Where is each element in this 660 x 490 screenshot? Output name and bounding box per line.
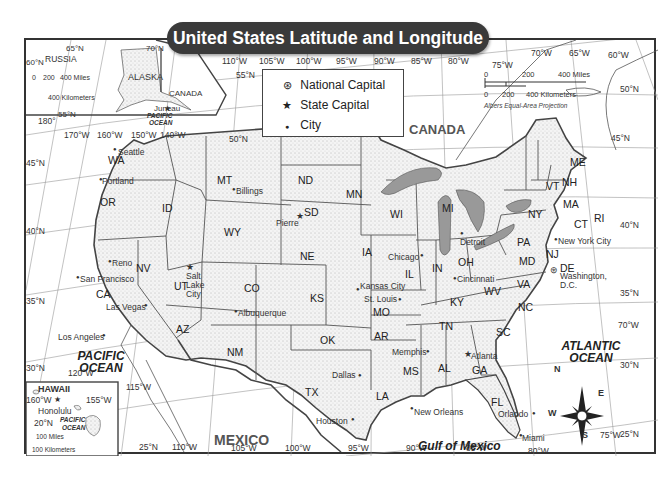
ak-canada: CANADA xyxy=(169,89,202,98)
atlantic-ocean-label: ATLANTIC OCEAN xyxy=(546,340,636,364)
scale-km-0: 0 xyxy=(484,90,488,99)
state-il: IL xyxy=(405,268,414,280)
state-ar: AR xyxy=(374,330,389,342)
city-dot: ● xyxy=(356,286,360,292)
country-mexico: MEXICO xyxy=(214,432,269,448)
pacific-ocean-label: PACIFIC OCEAN xyxy=(66,350,136,374)
scale-miles-200: 200 xyxy=(522,70,535,79)
state-capital-star-icon: ★ xyxy=(54,395,61,404)
lon-115w-bottom: 115°W xyxy=(126,382,151,392)
country-canada: CANADA xyxy=(409,122,465,137)
state-capital-star-icon: ★ xyxy=(164,104,171,113)
state-nh: NH xyxy=(562,176,577,188)
ak-lon-140: 140°W xyxy=(160,130,186,140)
ak-lon-150: 150°W xyxy=(131,130,157,140)
city-billings: Billings xyxy=(236,186,263,196)
state-az: AZ xyxy=(176,323,189,335)
city-cincinnati: Cincinnati xyxy=(457,274,494,284)
city-dot: ● xyxy=(99,176,103,182)
city-chicago: Chicago xyxy=(388,252,419,262)
hi-lon-160: 160°W xyxy=(26,395,52,405)
state-capital-star-icon: ★ xyxy=(464,349,472,359)
lat-55n-left: 55°N xyxy=(236,70,255,80)
city-dot: ● xyxy=(398,296,402,302)
hi-ocean: OCEAN xyxy=(62,424,85,431)
lat-45n-right: 45°N xyxy=(611,133,630,143)
city-salt-lake: Salt Lake City xyxy=(186,272,204,299)
lat-25n-right: 25°N xyxy=(620,429,639,439)
city-dot: ● xyxy=(232,186,236,192)
lat-50n-left: 50°N xyxy=(229,134,248,144)
city-kansas-city: Kansas City xyxy=(360,281,405,291)
ak-lat-55: 55°N xyxy=(58,110,76,119)
city-dot: ● xyxy=(410,405,414,411)
scale-miles-0: 0 xyxy=(484,70,488,79)
ak-ocean: OCEAN xyxy=(149,119,172,126)
city-new-york: New York City xyxy=(558,236,611,246)
lon-70w-top: 70°W xyxy=(531,48,552,58)
state-tx: TX xyxy=(305,386,318,398)
state-nc: NC xyxy=(518,301,533,313)
state-or: OR xyxy=(100,196,116,208)
hi-lat-20: 20°N xyxy=(34,418,53,428)
lon-100w-bottom: 100°W xyxy=(285,443,311,453)
ak-lat-70: 70°N xyxy=(146,44,164,53)
compass-n: N xyxy=(554,364,561,374)
ak-scale-400: 400 Miles xyxy=(60,74,90,81)
lat-30n-left: 30°N xyxy=(26,363,45,373)
state-mt: MT xyxy=(217,174,232,186)
lat-40n-left: 40°N xyxy=(26,226,45,236)
city-dot: ● xyxy=(519,432,523,438)
city-portland: Portland xyxy=(102,176,134,186)
lon-105w-top: 105°W xyxy=(259,56,285,66)
ak-lon-180: 180° xyxy=(38,116,56,126)
state-ri: RI xyxy=(594,212,605,224)
state-capital-star-icon: ★ xyxy=(186,262,194,272)
city-seattle: Seattle xyxy=(118,147,144,157)
city-dot: ● xyxy=(76,274,80,280)
hi-scale-km: 100 Kilometers xyxy=(32,446,75,453)
city-dot: ● xyxy=(108,258,112,264)
hi-lon-155: 155°W xyxy=(86,395,112,405)
state-md: MD xyxy=(519,255,535,267)
lon-95w-bottom: 95°W xyxy=(348,443,369,453)
state-ia: IA xyxy=(362,246,372,258)
lon-110w-bottom: 110°W xyxy=(172,442,197,452)
city-dallas: Dallas xyxy=(332,370,356,380)
lat-45n-left: 45°N xyxy=(26,158,45,168)
city-new-orleans: New Orleans xyxy=(414,407,463,417)
ak-pacific: PACIFIC xyxy=(147,112,173,119)
state-nd: ND xyxy=(298,174,313,186)
ak-lon-160: 160°W xyxy=(97,130,123,140)
city-orlando: Orlando xyxy=(498,409,528,419)
state-ok: OK xyxy=(320,334,335,346)
state-in: IN xyxy=(432,262,443,274)
state-mo: MO xyxy=(373,306,390,318)
city-dot: ● xyxy=(144,302,148,308)
state-la: LA xyxy=(376,390,389,402)
lon-80w-bottom: 80°W xyxy=(528,446,549,456)
ak-lat-60: 60°N xyxy=(26,58,44,67)
map-title: United States Latitude and Longitude xyxy=(167,22,489,54)
state-co: CO xyxy=(244,282,260,294)
city-st-louis: St. Louis xyxy=(364,294,397,304)
state-mn: MN xyxy=(346,188,362,200)
state-ne: NE xyxy=(300,250,315,262)
city-dot: ● xyxy=(351,416,355,422)
projection-label: Albers Equal-Area Projection xyxy=(484,102,567,109)
state-sd: SD xyxy=(304,206,319,218)
ak-alaska-label: ALASKA xyxy=(128,72,163,82)
lat-50n-right: 50°N xyxy=(620,84,639,94)
city-washington-dc: Washington, D.C. xyxy=(560,272,607,290)
city-reno: Reno xyxy=(112,258,132,268)
city-dot: ● xyxy=(102,332,106,338)
lat-35n-right: 35°N xyxy=(620,288,639,298)
state-wi: WI xyxy=(390,208,403,220)
city-dot: ● xyxy=(532,410,536,416)
lon-60w-top: 60°W xyxy=(608,50,629,60)
hi-scale-miles: 100 Miles xyxy=(36,433,64,440)
lon-75w-bottom: 75°W xyxy=(600,430,621,440)
lon-95w-top: 95°W xyxy=(336,56,357,66)
state-ct: CT xyxy=(574,218,588,230)
legend-item-city: ● City xyxy=(277,118,321,132)
